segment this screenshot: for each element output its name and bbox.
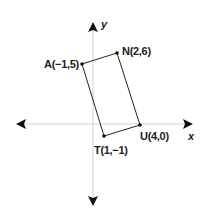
vertex-N-point — [115, 51, 119, 55]
vertex-T-label: T(1,−1) — [94, 144, 128, 156]
vertex-A-label: A(−1,5) — [44, 58, 80, 70]
vertex-A-point — [80, 62, 84, 66]
vertex-N-label: N(2,6) — [122, 45, 151, 57]
vertex-U-label: U(4,0) — [140, 130, 169, 142]
vertex-T-point — [102, 134, 106, 138]
coordinate-diagram: y x A(−1,5) N(2,6) U(4,0) T(1,−1) — [0, 0, 208, 217]
x-axis-label: x — [187, 130, 195, 142]
vertex-U-point — [138, 123, 142, 127]
y-axis-label: y — [100, 18, 108, 30]
diagram-canvas: y x A(−1,5) N(2,6) U(4,0) T(1,−1) — [0, 0, 208, 217]
